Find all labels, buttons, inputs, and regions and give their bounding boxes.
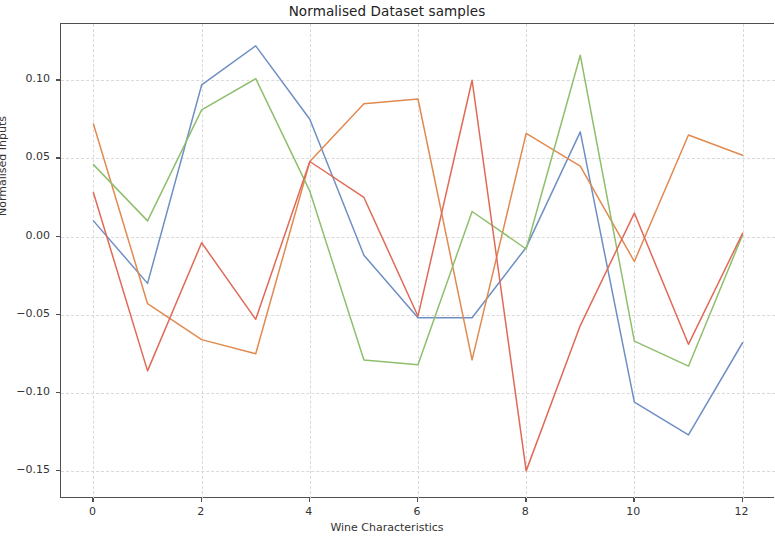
x-tick-label: 2	[181, 505, 221, 518]
x-tick-label: 12	[722, 505, 762, 518]
x-tickmark	[201, 498, 202, 502]
x-tickmark	[417, 498, 418, 502]
y-tick-label: 0.05	[0, 150, 50, 163]
y-tickmark	[56, 392, 60, 393]
plot-area	[60, 23, 774, 498]
data-lines-layer	[61, 24, 775, 499]
x-tickmark	[92, 498, 93, 502]
y-tick-label: 0.10	[0, 72, 50, 85]
x-tickmark	[525, 498, 526, 502]
data-line-2	[93, 99, 742, 360]
y-tickmark	[56, 157, 60, 158]
x-tickmark	[309, 498, 310, 502]
y-axis-label: Normalised Inputs	[0, 16, 9, 216]
y-tickmark	[56, 470, 60, 471]
x-tick-label: 8	[505, 505, 545, 518]
y-tick-label: −0.10	[0, 385, 50, 398]
y-tickmark	[56, 79, 60, 80]
x-axis-label: Wine Characteristics	[0, 521, 774, 534]
y-tick-label: −0.05	[0, 307, 50, 320]
x-tick-label: 4	[289, 505, 329, 518]
chart-title: Normalised Dataset samples	[0, 3, 774, 19]
y-tick-label: −0.15	[0, 463, 50, 476]
x-tick-label: 6	[397, 505, 437, 518]
x-tick-label: 10	[613, 505, 653, 518]
y-tick-label: 0.00	[0, 229, 50, 242]
data-line-4	[93, 80, 742, 471]
x-tickmark	[742, 498, 743, 502]
y-tickmark	[56, 236, 60, 237]
x-tickmark	[633, 498, 634, 502]
y-tickmark	[56, 314, 60, 315]
x-tick-label: 0	[72, 505, 112, 518]
